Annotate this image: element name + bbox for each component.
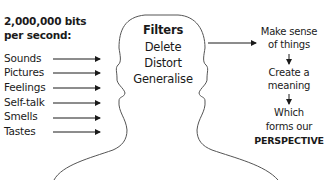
input-item-tastes: Tastes [4,125,35,138]
heading-line-2: per second: [4,28,86,42]
step2-line1: Create a [254,66,324,79]
input-item-sounds: Sounds [4,52,41,65]
filters-title: Filters [118,22,208,38]
step2-line2: meaning [254,79,324,92]
input-heading: 2,000,000 bits per second: [4,14,86,42]
step1-line1: Make sense [254,25,324,38]
heading-line-1: 2,000,000 bits [4,14,86,28]
perspective-label: PERSPECTIVE [254,134,324,147]
input-item-self-talk: Self-talk [4,96,45,109]
filter-generalise: Generalise [118,71,208,87]
input-item-smells: Smells [4,110,37,123]
step1-line2: of things [254,38,324,51]
filter-distort: Distort [118,55,208,71]
filter-delete: Delete [118,39,208,55]
input-arrows [53,59,100,132]
input-item-pictures: Pictures [4,66,44,79]
step3-line1: Which [254,106,324,119]
input-item-feelings: Feelings [4,81,45,94]
step3-line2: forms our [254,120,324,133]
